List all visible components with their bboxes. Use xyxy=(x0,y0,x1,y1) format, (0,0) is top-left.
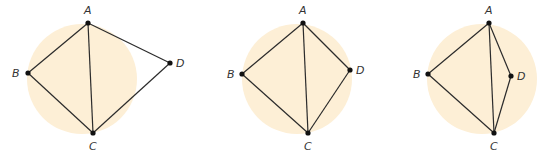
point-label-c: C xyxy=(490,140,498,153)
figure-1: ABCD xyxy=(12,4,184,153)
circumscribed-circle xyxy=(27,24,137,134)
point-label-a: A xyxy=(83,4,92,17)
point-b xyxy=(425,71,430,76)
point-b xyxy=(239,71,244,76)
point-label-b: B xyxy=(413,68,421,81)
figure-2: ABCD xyxy=(227,4,364,153)
point-c xyxy=(491,130,496,135)
point-label-c: C xyxy=(89,140,97,153)
diagram-canvas: ABCDABCDABCD xyxy=(0,0,542,160)
point-label-d: D xyxy=(517,70,525,83)
point-a xyxy=(300,20,305,25)
point-d xyxy=(347,67,352,72)
point-label-a: A xyxy=(298,4,307,17)
figure-3: ABCD xyxy=(413,4,537,153)
point-b xyxy=(25,70,30,75)
point-label-c: C xyxy=(304,140,312,153)
circumscribed-circle xyxy=(242,24,352,134)
point-c xyxy=(90,130,95,135)
point-a xyxy=(486,20,491,25)
point-label-b: B xyxy=(227,68,235,81)
point-d xyxy=(508,73,513,78)
point-label-b: B xyxy=(12,67,20,80)
point-label-d: D xyxy=(176,57,184,70)
point-label-a: A xyxy=(484,4,493,17)
point-a xyxy=(85,20,90,25)
point-c xyxy=(305,130,310,135)
point-label-d: D xyxy=(356,64,364,77)
point-d xyxy=(167,60,172,65)
